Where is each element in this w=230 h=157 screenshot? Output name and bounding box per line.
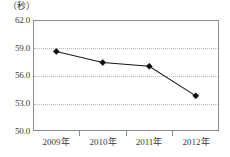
- series-line: [56, 51, 196, 95]
- series-layer: [0, 0, 230, 157]
- line-chart: （秒） 62.0 59.0 56.0 53.0 50.0 2009年 2010年…: [0, 0, 230, 157]
- data-point-2009年: [53, 48, 59, 54]
- data-point-2011年: [146, 63, 152, 69]
- data-point-2010年: [100, 60, 106, 66]
- data-point-2012年: [193, 93, 199, 99]
